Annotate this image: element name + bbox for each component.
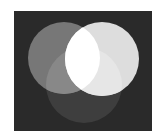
venn-diagram <box>0 0 157 136</box>
